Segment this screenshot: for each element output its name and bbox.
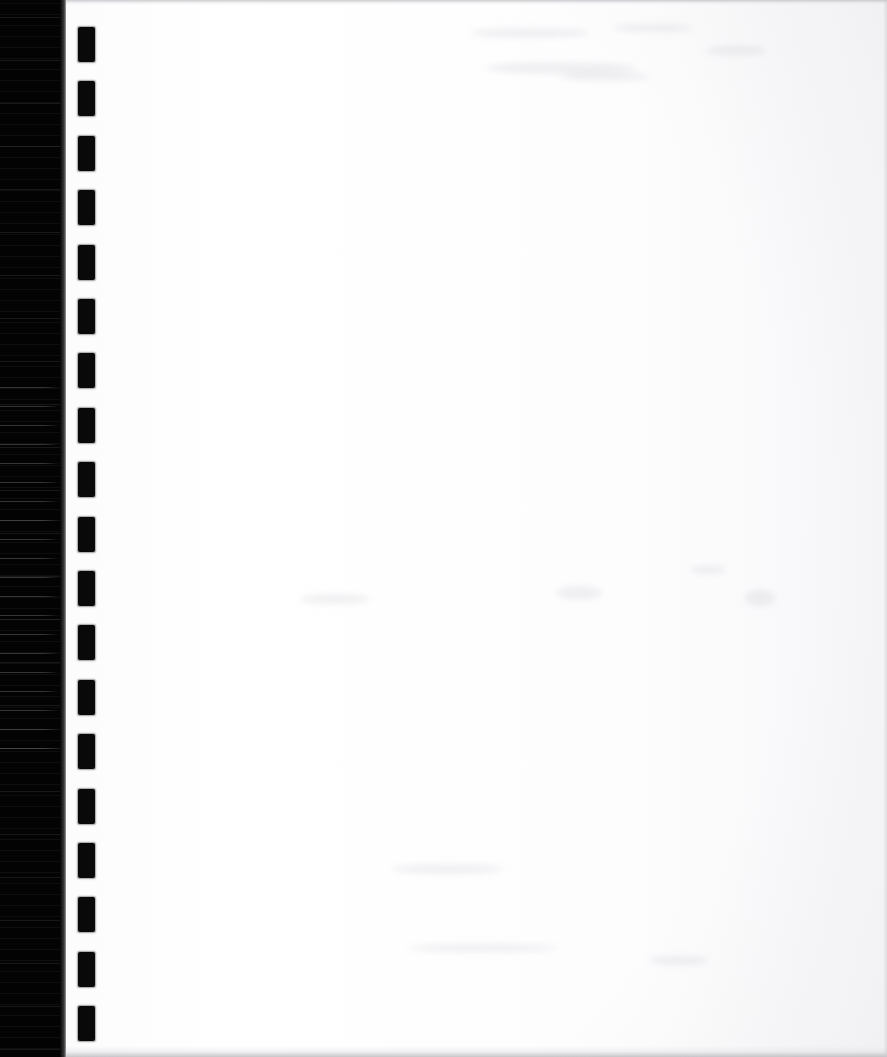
binding-hole bbox=[78, 843, 95, 878]
binding-hole bbox=[78, 625, 95, 660]
scanned-page bbox=[0, 0, 887, 1057]
binding-hole bbox=[78, 680, 95, 715]
binding-hole bbox=[78, 734, 95, 769]
binding-hole bbox=[78, 517, 95, 552]
scanner-dark-margin bbox=[0, 0, 60, 1057]
paper-vignette bbox=[66, 0, 887, 1057]
paper-sheet bbox=[66, 0, 887, 1057]
binding-hole bbox=[78, 136, 95, 171]
binding-hole bbox=[78, 27, 95, 62]
paper-bottom-edge bbox=[66, 1046, 887, 1057]
binding-hole bbox=[78, 81, 95, 116]
binding-hole bbox=[78, 190, 95, 225]
scan-streak-noise-strong bbox=[0, 381, 60, 762]
binding-hole bbox=[78, 571, 95, 606]
binding-hole bbox=[78, 353, 95, 388]
binding-hole bbox=[78, 408, 95, 443]
binding-hole bbox=[78, 299, 95, 334]
binding-hole bbox=[78, 789, 95, 824]
binding-hole bbox=[78, 1006, 95, 1041]
paper-top-edge bbox=[66, 0, 887, 5]
binding-hole bbox=[78, 462, 95, 497]
paper-right-edge bbox=[883, 0, 887, 1057]
binding-hole bbox=[78, 952, 95, 987]
binding-hole bbox=[78, 245, 95, 280]
binding-hole bbox=[78, 897, 95, 932]
